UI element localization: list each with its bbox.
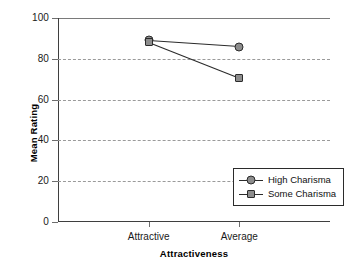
- data-point-marker: [235, 42, 244, 51]
- y-axis-tick-label: 0: [43, 217, 49, 227]
- y-axis-title: Mean Rating: [28, 103, 39, 162]
- legend-marker-square-icon: [239, 188, 263, 200]
- series-line: [149, 40, 240, 46]
- x-axis-tick-label: Attractive: [128, 231, 170, 242]
- data-point-marker: [145, 38, 153, 46]
- y-axis-tick-label: 80: [38, 54, 49, 64]
- chart-figure: Mean Rating 020406080100 AttractiveAvera…: [0, 0, 362, 265]
- y-axis-tick-label: 20: [38, 176, 49, 186]
- legend-marker-circle-icon: [239, 174, 263, 186]
- y-axis-tick-label: 60: [38, 95, 49, 105]
- series-line: [149, 42, 240, 78]
- y-axis-tick-label: 40: [38, 135, 49, 145]
- x-axis-tick: [239, 222, 240, 227]
- data-point-marker: [235, 74, 243, 82]
- y-axis-tick: [52, 222, 58, 223]
- chart-legend: High Charisma Some Charisma: [233, 168, 344, 206]
- x-axis-title: Attractiveness: [58, 248, 330, 259]
- x-axis-tick: [149, 222, 150, 227]
- legend-item-high-charisma[interactable]: High Charisma: [239, 173, 336, 187]
- x-axis-tick-label: Average: [221, 231, 258, 242]
- legend-label: High Charisma: [268, 174, 331, 186]
- legend-item-some-charisma[interactable]: Some Charisma: [239, 187, 336, 201]
- legend-label: Some Charisma: [268, 188, 336, 200]
- y-axis-tick-label: 100: [32, 13, 49, 23]
